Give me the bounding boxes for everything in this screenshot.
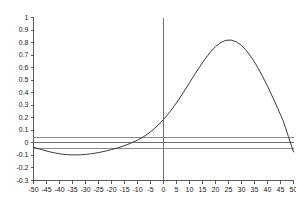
- x-tick-label: 20: [212, 186, 220, 194]
- x-tick-label: 50: [290, 186, 296, 194]
- x-tick-label: 45: [277, 186, 285, 194]
- chart-plot-area: [0, 0, 296, 213]
- x-tick-label: -40: [54, 186, 64, 194]
- x-tick-label: -50: [28, 186, 38, 194]
- x-tick-label: 30: [238, 186, 246, 194]
- y-tick-label: 0.9: [0, 26, 29, 34]
- x-tick-label: -45: [41, 186, 51, 194]
- y-tick-label: 0.7: [0, 51, 29, 59]
- y-tick-label: 0.4: [0, 89, 29, 97]
- y-tick-label: 0.6: [0, 64, 29, 72]
- y-tick-label: 0.1: [0, 126, 29, 134]
- x-tick-label: -15: [119, 186, 129, 194]
- x-tick-label: 0: [162, 186, 166, 194]
- reference-lines-group: [34, 18, 294, 181]
- x-tick-label: 40: [264, 186, 272, 194]
- axis-ticks-group: [31, 18, 294, 184]
- y-tick-label: -0.1: [0, 151, 29, 159]
- x-tick-label: 10: [186, 186, 194, 194]
- x-tick-label: -10: [132, 186, 142, 194]
- y-tick-label: 0: [0, 139, 29, 147]
- x-tick-label: 5: [175, 186, 179, 194]
- y-tick-label: 0.5: [0, 76, 29, 84]
- x-tick-label: -35: [67, 186, 77, 194]
- x-tick-label: 15: [199, 186, 207, 194]
- x-tick-label: 35: [251, 186, 259, 194]
- y-tick-label: 1: [0, 14, 29, 22]
- x-tick-label: 25: [225, 186, 233, 194]
- x-tick-label: -25: [93, 186, 103, 194]
- y-tick-label: -0.3: [0, 177, 29, 185]
- y-tick-label: 0.3: [0, 101, 29, 109]
- y-tick-label: -0.2: [0, 164, 29, 172]
- x-tick-label: -5: [147, 186, 153, 194]
- x-tick-label: -30: [80, 186, 90, 194]
- chart-container: -0.3-0.2-0.100.10.20.30.40.50.60.70.80.9…: [0, 0, 296, 213]
- x-tick-label: -20: [106, 186, 116, 194]
- y-tick-label: 0.2: [0, 114, 29, 122]
- y-tick-label: 0.8: [0, 39, 29, 47]
